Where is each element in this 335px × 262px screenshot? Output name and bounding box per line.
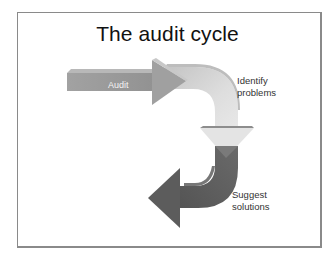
audit-label: Audit — [108, 80, 129, 90]
suggest-solutions-arrow — [148, 146, 238, 228]
identify-problems-label: Identify problems — [237, 75, 276, 98]
suggest-line-1: Suggest — [232, 189, 270, 201]
suggest-line-2: solutions — [232, 201, 270, 213]
identify-line-1: Identify — [237, 75, 276, 87]
suggest-solutions-label: Suggest solutions — [232, 189, 270, 212]
audit-cycle-diagram — [0, 0, 335, 262]
identify-line-2: problems — [237, 87, 276, 99]
